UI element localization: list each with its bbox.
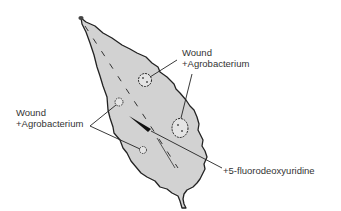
label-left: Wound +Agrobacterium bbox=[16, 107, 83, 129]
leaf-diagram: Wound +Agrobacterium Wound +Agrobacteriu… bbox=[0, 0, 341, 211]
wound-upper bbox=[139, 74, 152, 87]
leaf-illustration bbox=[0, 0, 341, 211]
wound-right bbox=[172, 119, 188, 138]
label-fluoro-line1: +5-fluorodeoxyuridine bbox=[223, 165, 315, 176]
wound-left bbox=[115, 98, 123, 106]
label-upper-right: Wound +Agrobacterium bbox=[182, 47, 249, 69]
leaf-tip bbox=[78, 16, 83, 20]
wound-lower bbox=[140, 147, 147, 154]
label-upper-right-line2: +Agrobacterium bbox=[182, 58, 249, 69]
label-upper-right-line1: Wound bbox=[182, 47, 249, 58]
label-left-line2: +Agrobacterium bbox=[16, 118, 83, 129]
label-left-line1: Wound bbox=[16, 107, 83, 118]
label-fluorodeoxyuridine: +5-fluorodeoxyuridine bbox=[223, 165, 315, 176]
